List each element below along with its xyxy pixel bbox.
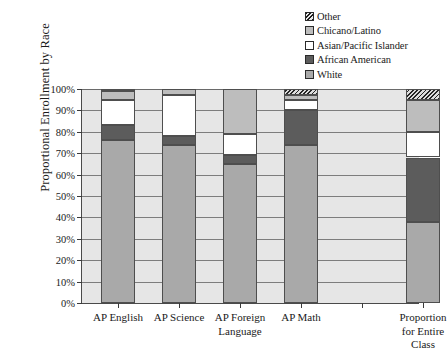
x-axis-tick xyxy=(301,303,302,308)
bar-segment-white[interactable] xyxy=(406,222,440,303)
bar-segment-chicano-latino[interactable] xyxy=(406,100,440,132)
bar-segment-asian-pacific-islander[interactable] xyxy=(162,95,196,136)
bar-segment-chicano-latino[interactable] xyxy=(162,89,196,95)
bar-segment-asian-pacific-islander[interactable] xyxy=(101,100,135,126)
legend-item-white: White xyxy=(305,67,445,82)
y-axis-tick-label: 0% xyxy=(61,298,75,309)
bar-segment-chicano-latino[interactable] xyxy=(101,91,135,100)
legend-label-white: White xyxy=(317,69,342,80)
bar-ap-foreign-language[interactable] xyxy=(223,89,257,303)
y-axis-tick-label: 30% xyxy=(56,233,75,244)
x-axis-tick xyxy=(118,303,119,308)
bar-segment-african-american[interactable] xyxy=(162,136,196,145)
bar-segment-white[interactable] xyxy=(223,164,257,303)
legend-swatch-chicano-latino-icon xyxy=(305,26,314,35)
y-axis-tick-label: 20% xyxy=(56,255,75,266)
legend-label-other: Other xyxy=(317,11,340,22)
plot-area: 0%10%20%30%40%50%60%70%80%90%100% AP Eng… xyxy=(81,89,419,304)
bar-segment-other[interactable] xyxy=(101,89,135,91)
x-axis-tick xyxy=(423,303,424,308)
legend-item-chicano-latino: Chicano/Latino xyxy=(305,24,445,39)
legend-swatch-african-american-icon xyxy=(305,55,314,64)
x-axis-label-ap-foreign-language: AP Foreign Language xyxy=(215,311,266,338)
y-axis-tick xyxy=(77,303,82,304)
bar-segment-asian-pacific-islander[interactable] xyxy=(406,132,440,158)
x-axis-label-ap-science: AP Science xyxy=(154,311,205,325)
bar-segment-white[interactable] xyxy=(162,145,196,303)
y-axis-title: Proportional Enrollment by Race xyxy=(38,0,53,223)
y-axis-tick-label: 80% xyxy=(56,126,75,137)
bar-segment-african-american[interactable] xyxy=(284,110,318,144)
bar-segment-white[interactable] xyxy=(101,140,135,303)
bar-segment-asian-pacific-islander[interactable] xyxy=(223,134,257,155)
legend-item-other: Other xyxy=(305,9,445,24)
bar-segment-other[interactable] xyxy=(406,89,440,100)
x-axis-label-proportion-for-entire-class: Proportion for Entire Class xyxy=(399,311,446,348)
y-axis-tick-label: 10% xyxy=(56,276,75,287)
bar-segment-african-american[interactable] xyxy=(223,155,257,164)
x-axis-tick xyxy=(179,303,180,308)
legend-label-african-american: African American xyxy=(317,54,391,65)
y-axis-tick-label: 70% xyxy=(56,148,75,159)
bar-proportion-for-entire-class[interactable] xyxy=(406,89,440,303)
y-axis-tick-label: 50% xyxy=(56,191,75,202)
y-axis-tick-label: 60% xyxy=(56,169,75,180)
bar-ap-science[interactable] xyxy=(162,89,196,303)
bar-segment-other[interactable] xyxy=(284,89,318,95)
chart-legend: Other Chicano/Latino Asian/Pacific Islan… xyxy=(305,9,445,82)
x-axis-label-ap-english: AP English xyxy=(93,311,143,325)
x-axis-tick xyxy=(362,303,363,308)
bar-ap-english[interactable] xyxy=(101,89,135,303)
y-axis-tick-label: 90% xyxy=(56,105,75,116)
legend-item-african-american: African American xyxy=(305,53,445,68)
bar-ap-math[interactable] xyxy=(284,89,318,303)
y-axis-tick-label: 100% xyxy=(51,84,76,95)
bar-segment-asian-pacific-islander[interactable] xyxy=(284,100,318,111)
x-axis-label-ap-math: AP Math xyxy=(281,311,321,325)
bar-segment-african-american[interactable] xyxy=(406,158,440,222)
legend-swatch-other-icon xyxy=(305,12,314,21)
legend-item-asian-pacific-islander: Asian/Pacific Islander xyxy=(305,38,445,53)
legend-swatch-asian-pacific-islander-icon xyxy=(305,41,314,50)
bar-segment-white[interactable] xyxy=(284,145,318,303)
bar-segment-chicano-latino[interactable] xyxy=(223,89,257,134)
y-axis-tick-label: 40% xyxy=(56,212,75,223)
bar-segment-chicano-latino[interactable] xyxy=(284,95,318,99)
legend-label-chicano-latino: Chicano/Latino xyxy=(317,25,381,36)
x-axis-tick xyxy=(240,303,241,308)
legend-swatch-white-icon xyxy=(305,70,314,79)
bar-segment-african-american[interactable] xyxy=(101,125,135,140)
legend-label-asian-pacific-islander: Asian/Pacific Islander xyxy=(317,40,408,51)
bar-group: AP EnglishAP ScienceAP Foreign LanguageA… xyxy=(82,89,419,303)
